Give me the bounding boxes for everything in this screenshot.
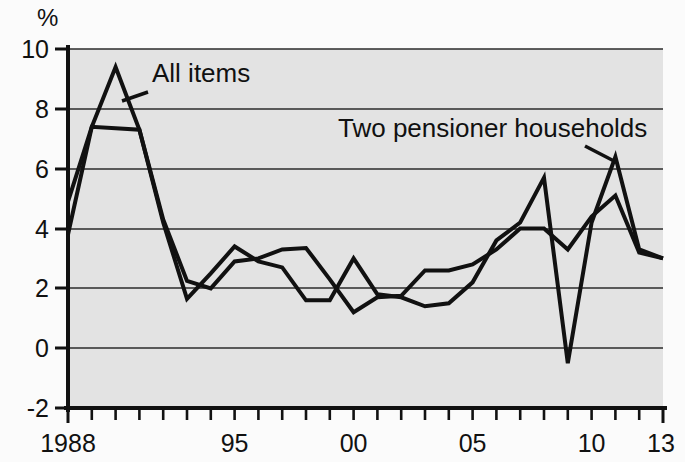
line-chart: % 10 8 6 4 2 0 -2 1988 95 00 05 10 13 Al… [0,0,685,462]
x-tick-label-13: 13 [647,429,675,457]
x-tick-label-05: 05 [459,429,487,457]
y-tick-label-2: 2 [35,274,49,302]
x-tick-label-1988: 1988 [40,429,96,457]
x-axis-ticks [68,408,663,423]
chart-container: % 10 8 6 4 2 0 -2 1988 95 00 05 10 13 Al… [0,0,685,462]
y-tick-label-minus2: -2 [27,394,49,422]
x-tick-label-10: 10 [578,429,606,457]
all-items-label: All items [152,58,250,88]
y-tick-label-4: 4 [35,215,49,243]
y-tick-label-8: 8 [35,95,49,123]
y-tick-label-6: 6 [35,155,49,183]
x-tick-label-00: 00 [340,429,368,457]
two-pensioner-households-label: Two pensioner households [338,113,647,143]
x-tick-label-95: 95 [221,429,249,457]
y-axis-tick-labels: 10 8 6 4 2 0 -2 [21,35,49,422]
y-tick-label-0: 0 [35,334,49,362]
x-axis-tick-labels: 1988 95 00 05 10 13 [40,429,675,457]
y-tick-label-10: 10 [21,35,49,63]
y-axis-unit-label: % [37,4,58,31]
